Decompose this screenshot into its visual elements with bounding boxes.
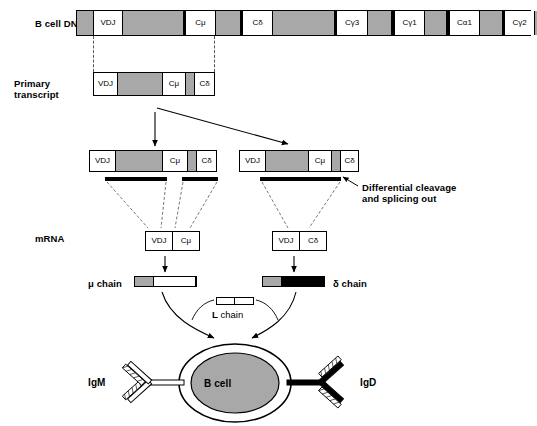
transcript-right-segment-cdelta: Cδ	[340, 151, 358, 171]
transcript-right-bar: VDJ Cμ Cδ	[239, 150, 359, 172]
primary-segment-vdj-label: VDJ	[98, 80, 113, 88]
primary-segment-cdelta: Cδ	[194, 73, 214, 95]
dna-intron-6	[480, 11, 502, 35]
arrow-delta-to-bcell	[252, 292, 296, 338]
label-b-cell: B cell	[204, 378, 231, 389]
transcript-right-intron-1	[266, 151, 308, 171]
dna-segment-cgamma3-label: Cγ3	[345, 19, 359, 27]
transcript-right-cdelta-label: Cδ	[344, 157, 354, 165]
label-igd: IgD	[360, 377, 376, 388]
label-igm: IgM	[88, 377, 106, 388]
pointer-differential-cleavage	[343, 177, 358, 186]
primary-intron-2	[186, 73, 194, 95]
transcript-left-cdelta-label: Cδ	[201, 157, 211, 165]
dna-segment-cgamma1: Cγ1	[395, 11, 425, 35]
b-cell-dna-bar: VDJ Cμ Cδ Cγ3 Cγ1 Cα1 Cγ2 Cγ4 Cε Cα2	[76, 10, 531, 36]
splice-connectors-left	[107, 182, 217, 228]
annotation-differential-cleavage-line2: and splicing out	[362, 193, 436, 204]
l-chain-constant-region	[235, 298, 253, 304]
mrna-left-vdj-label: VDJ	[151, 237, 166, 245]
leader-l-chain-right	[256, 300, 278, 320]
splice-connectors-right	[262, 182, 340, 228]
dna-segment-cmu: Cμ	[186, 11, 216, 35]
dna-intron-3	[273, 11, 334, 35]
row-label-primary-transcript-line2: transcript	[14, 89, 59, 100]
mrna-left-segment-cmu: Cμ	[173, 232, 199, 250]
dna-intron-4	[368, 11, 391, 35]
primary-transcript-bar: VDJ Cμ Cδ	[93, 72, 215, 96]
transcript-right-cmu-label: Cμ	[315, 157, 325, 165]
row-label-primary-transcript-line1: Primary	[14, 78, 50, 89]
dna-segment-calpha1-label: Cα1	[457, 19, 472, 27]
mrna-right-segment-vdj: VDJ	[273, 232, 300, 250]
splice-bar-left-a	[105, 177, 167, 181]
transcript-left-bar: VDJ Cμ Cδ	[89, 150, 217, 172]
primary-segment-cmu-label: Cμ	[169, 80, 179, 88]
transcript-left-segment-cmu: Cμ	[162, 151, 188, 171]
mrna-left-segment-vdj: VDJ	[146, 232, 173, 250]
igm-light-chain-lower	[122, 364, 145, 385]
mrna-right-segment-cdelta: Cδ	[300, 232, 326, 250]
transcript-left-cmu-label: Cμ	[170, 157, 180, 165]
leader-l-chain-left	[192, 300, 214, 320]
mu-chain-bar	[134, 276, 197, 287]
splice-bar-left-b	[182, 177, 218, 181]
transcript-right-intron-2	[332, 151, 340, 171]
dna-segment-vdj-label: VDJ	[100, 19, 115, 27]
dna-segment-calpha1: Cα1	[450, 11, 480, 35]
label-delta-chain: δ chain	[333, 278, 367, 289]
mrna-right-vdj-label: VDJ	[278, 237, 293, 245]
transcript-right-segment-vdj: VDJ	[240, 151, 266, 171]
delta-chain-bar	[262, 276, 325, 287]
primary-intron-1	[118, 73, 162, 95]
diagram-vector-layer	[0, 0, 537, 426]
row-label-mrna: mRNA	[35, 233, 64, 244]
igd-light-chain-upper	[319, 356, 342, 377]
transcript-left-intron-2	[188, 151, 196, 171]
dna-intron-1	[123, 11, 183, 35]
splice-bar-right	[260, 177, 341, 181]
dna-segment-cgamma1-label: Cγ1	[402, 19, 416, 27]
arrow-mu-to-bcell	[162, 292, 214, 338]
delta-chain-constant-region	[281, 277, 324, 286]
label-l-chain-rest: chain	[218, 309, 243, 320]
dashed-guide-left	[93, 36, 94, 72]
transcript-right-vdj-label: VDJ	[245, 157, 260, 165]
arrow-primary-to-right	[157, 108, 288, 144]
dna-intron-0	[77, 11, 93, 35]
transcript-right-segment-cmu: Cμ	[308, 151, 332, 171]
dna-segment-cgamma3: Cγ3	[337, 11, 368, 35]
annotation-differential-cleavage-line1: Differential cleavage	[362, 182, 457, 193]
primary-segment-cmu: Cμ	[162, 73, 186, 95]
label-l-chain: L chain	[212, 309, 243, 320]
b-cell-membrane	[179, 344, 291, 422]
mrna-left-bar: VDJ Cμ	[145, 231, 200, 251]
dna-intron-5	[425, 11, 446, 35]
transcript-left-segment-cdelta: Cδ	[196, 151, 216, 171]
delta-chain-variable-region	[263, 277, 281, 286]
dna-segment-cdelta-label: Cδ	[252, 19, 262, 27]
dna-intron-2	[216, 11, 240, 35]
label-mu-chain: μ chain	[88, 278, 122, 289]
mu-chain-variable-region	[135, 277, 153, 286]
igm-light-chain-upper	[122, 379, 145, 400]
igm-antibody	[122, 361, 184, 402]
primary-segment-vdj: VDJ	[94, 73, 118, 95]
primary-segment-cdelta-label: Cδ	[199, 80, 209, 88]
dashed-guide-right	[214, 36, 215, 72]
dna-segment-vdj: VDJ	[93, 11, 123, 35]
transcript-left-vdj-label: VDJ	[95, 157, 110, 165]
mrna-left-cmu-label: Cμ	[181, 237, 191, 245]
dna-segment-cgamma2: Cγ2	[505, 11, 535, 35]
transcript-left-intron-1	[116, 151, 162, 171]
igd-antibody	[287, 356, 343, 408]
mrna-right-bar: VDJ Cδ	[272, 231, 327, 251]
dna-segment-cdelta: Cδ	[243, 11, 273, 35]
l-chain-variable-region	[217, 298, 235, 304]
dna-segment-cgamma2-label: Cγ2	[512, 19, 526, 27]
transcript-left-segment-vdj: VDJ	[90, 151, 116, 171]
mu-chain-constant-region	[153, 277, 196, 286]
dna-segment-cmu-label: Cμ	[195, 19, 205, 27]
mrna-right-cdelta-label: Cδ	[308, 237, 318, 245]
igd-light-chain-lower	[319, 387, 342, 408]
